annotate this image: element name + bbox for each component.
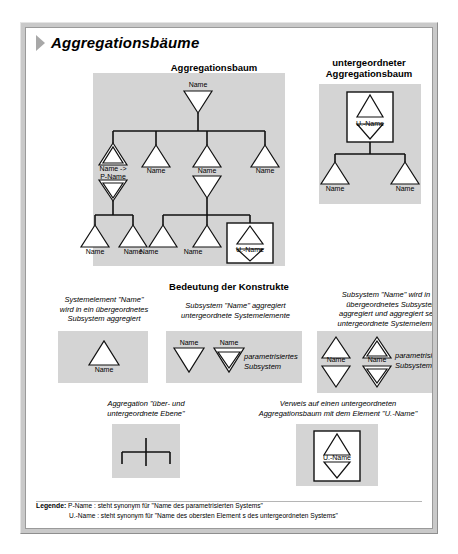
construct-3-caption: Subsystem "Name" wird in ein übergeordne… — [314, 290, 432, 328]
tree-node-l2l-a — [81, 225, 109, 247]
tree-node-l2r-a — [149, 225, 177, 247]
construct-5-caption-line1: Verweis auf einen untergeordneten — [232, 399, 432, 409]
construct-4-caption-line1: Aggregation "über- und — [71, 399, 221, 409]
construct-2-caption-line2: untergeordnete Systemelemente — [158, 311, 313, 321]
construct-3-caption-line3: aggregiert und aggregiert selbst — [314, 309, 432, 319]
construct-2-side-note: parametrisiertes Subsystem — [244, 352, 306, 371]
construct-1-caption: Systemelement "Name" wird in ein übergeo… — [36, 295, 172, 324]
construct-2-side-note-line1: parametrisiertes — [244, 352, 306, 362]
construct-5-caption-line2: Aggregationsbaum mit dem Element "U.-Nam… — [232, 409, 432, 419]
heading-untergeordneter-aggregationsbaum: untergeordneter Aggregationsbaum — [314, 57, 424, 79]
legend-row-1: Legende: P-Name : steht synonym für "Nam… — [36, 501, 422, 511]
page-root: Aggregationsbäume Aggregationsbaum unter… — [0, 0, 458, 554]
construct-2-caption-line1: Subsystem "Name" aggregiert — [158, 301, 313, 311]
legend-text-1: P-Name : steht synonym für "Name des par… — [68, 502, 263, 509]
subtree-node-a — [321, 162, 349, 184]
tree-label-c3: Name — [177, 167, 237, 175]
construct-3-caption-line2: übergeordnetes Subsystem — [314, 300, 432, 310]
construct-2-label-b: Name — [199, 339, 259, 347]
slide-canvas: Aggregationsbäume Aggregationsbaum unter… — [26, 28, 432, 528]
page-title-text: Aggregationsbäume — [51, 34, 199, 51]
triangle-right-bullet-icon — [36, 35, 45, 51]
tree-node-c3-down — [193, 176, 221, 198]
construct-5-caption: Verweis auf einen untergeordneten Aggreg… — [232, 399, 432, 418]
construct-4-diagram — [112, 424, 180, 478]
construct-2-side-note-line2: Subsystem — [244, 362, 306, 372]
legend: Legende: P-Name : steht synonym für "Nam… — [36, 501, 422, 520]
heading-bedeutung-der-konstrukte: Bedeutung der Konstrukte — [136, 281, 322, 292]
tree-node-l2l-b — [119, 225, 147, 247]
tree-node-c4 — [251, 145, 279, 167]
tree-label-ref: U.-Name — [220, 246, 280, 254]
construct-3-caption-line1: Subsystem "Name" wird in ein — [314, 290, 432, 300]
construct-3-side-note-line1: parametrisiertes — [395, 351, 432, 361]
construct-1-caption-line2: wird in ein übergeordnetes — [36, 305, 172, 315]
construct-1-caption-line1: Systemelement "Name" — [36, 295, 172, 305]
construct-1-label: Name — [74, 366, 134, 374]
construct-3-caption-line4: untergeordnete Systemelemente — [314, 319, 432, 329]
tree-node-root-triangle — [184, 91, 212, 113]
heading-sub-line1: untergeordneter — [314, 57, 424, 68]
tree-node-c3-up — [193, 145, 221, 167]
heading-sub-line2: Aggregationsbaum — [314, 68, 424, 79]
construct-3-a-up — [322, 337, 350, 358]
inner-frame-border: Aggregationsbäume Aggregationsbaum unter… — [25, 27, 433, 529]
page-title: Aggregationsbäume — [36, 34, 199, 51]
subtree-label-b: Name — [375, 185, 432, 193]
construct-2-caption: Subsystem "Name" aggregiert untergeordne… — [158, 301, 313, 320]
construct-4-caption-line2: untergeordnete Ebene" — [71, 409, 221, 419]
heading-aggregationsbaum: Aggregationsbaum — [134, 62, 294, 73]
subtree-node-b — [391, 162, 419, 184]
construct-4-caption: Aggregation "über- und untergeordnete Eb… — [71, 399, 221, 418]
tree-node-l2r-b — [193, 225, 221, 247]
subtree-label-root: U.-Name — [340, 120, 400, 128]
tree-node-c2 — [142, 145, 170, 167]
legend-title: Legende: — [36, 502, 66, 509]
construct-1-diagram — [58, 331, 148, 383]
construct-3-a-down — [322, 366, 350, 387]
construct-2-down-triangle — [174, 348, 204, 372]
tree-label-l2r-b: Name — [163, 248, 223, 256]
subtree-label-a: Name — [305, 185, 365, 193]
tree-label-root: Name — [168, 81, 228, 89]
construct-1-caption-line3: Subsystem aggregiert — [36, 314, 172, 324]
construct-3-side-note: parametrisiertes Subsystem — [395, 351, 432, 370]
construct-5-label: U.-Name — [307, 454, 367, 462]
tree-label-c4: Name — [235, 167, 295, 175]
legend-row-2: U.-Name : steht synonym für "Name des ob… — [36, 511, 422, 521]
construct-3-side-note-line2: Subsystem — [395, 361, 432, 371]
outer-frame-bevel: Aggregationsbäume Aggregationsbaum unter… — [20, 22, 438, 534]
construct-1-up-triangle — [89, 341, 119, 365]
